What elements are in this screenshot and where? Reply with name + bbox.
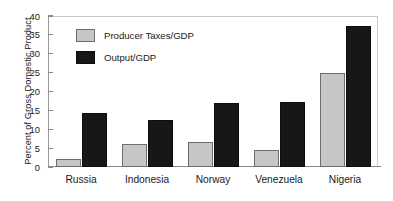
- legend: Producer Taxes/GDPOutput/GDP: [76, 26, 194, 70]
- bar-nigeria-output: [346, 26, 371, 167]
- bar-nigeria-producer-taxes: [320, 73, 345, 167]
- bar-norway-output: [214, 103, 239, 167]
- bar-chart-figure: Percent of Gross Domestic Product 403530…: [0, 0, 393, 201]
- x-label-venezuela: Venezuela: [246, 174, 312, 185]
- y-tick-label: 0: [14, 161, 40, 174]
- y-tick-mark: [48, 72, 53, 73]
- y-tick-mark: [48, 53, 53, 54]
- legend-item-producer-taxes: Producer Taxes/GDP: [76, 26, 194, 44]
- bar-venezuela-output: [280, 102, 305, 167]
- x-label-norway: Norway: [180, 174, 246, 185]
- y-tick-mark: [48, 166, 53, 167]
- y-tick-label: 40: [14, 10, 40, 23]
- y-tick-label: 35: [14, 28, 40, 41]
- bar-indonesia-output: [148, 120, 173, 167]
- y-tick-label: 30: [14, 47, 40, 60]
- bar-russia-producer-taxes: [56, 159, 81, 167]
- y-tick-label: 25: [14, 66, 40, 79]
- x-label-russia: Russia: [48, 174, 114, 185]
- bar-norway-producer-taxes: [188, 142, 213, 167]
- y-tick-mark: [48, 91, 53, 92]
- bar-russia-output: [82, 113, 107, 167]
- x-label-indonesia: Indonesia: [114, 174, 180, 185]
- y-tick-label: 10: [14, 123, 40, 136]
- legend-label: Producer Taxes/GDP: [104, 30, 194, 41]
- legend-label: Output/GDP: [104, 52, 156, 63]
- y-tick-mark: [48, 15, 53, 16]
- legend-item-output: Output/GDP: [76, 48, 194, 66]
- y-tick-mark: [48, 34, 53, 35]
- y-tick-mark: [48, 129, 53, 130]
- bar-venezuela-producer-taxes: [254, 150, 279, 167]
- y-tick-mark: [48, 110, 53, 111]
- bar-indonesia-producer-taxes: [122, 144, 147, 167]
- legend-swatch: [76, 51, 95, 64]
- y-tick-label: 5: [14, 142, 40, 155]
- y-tick-label: 15: [14, 104, 40, 117]
- legend-swatch: [76, 29, 95, 42]
- x-label-nigeria: Nigeria: [312, 174, 378, 185]
- y-tick-mark: [48, 148, 53, 149]
- y-tick-label: 20: [14, 85, 40, 98]
